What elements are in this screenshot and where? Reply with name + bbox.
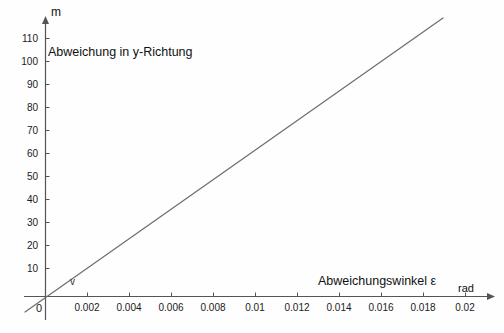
y-axis-title: Abweichung in y-Richtung [48, 46, 193, 59]
chart-figure: m Abweichung in y-Richtung Abweichungswi… [0, 0, 504, 333]
y-tick-label: 80 [12, 103, 38, 113]
y-tick-label: 70 [12, 126, 38, 136]
x-tick-label: 0.002 [64, 303, 110, 313]
y-tick-label: 10 [12, 264, 38, 274]
x-tick-label: 0.018 [400, 303, 446, 313]
x-axis [24, 293, 495, 300]
y-axis-unit-label: m [51, 6, 61, 18]
y-tick-label: 90 [12, 80, 38, 90]
x-tick-label: 0.016 [358, 303, 404, 313]
x-tick-label: 0.006 [148, 303, 194, 313]
x-tick-label: 0.012 [274, 303, 320, 313]
y-tick-label: 100 [12, 57, 38, 67]
x-axis-unit-label: rad [458, 283, 474, 294]
x-tick-label: 0.008 [190, 303, 236, 313]
x-tick-label: 0.004 [106, 303, 152, 313]
x-tick-label: 0.01 [232, 303, 278, 313]
y-tick-label: 20 [12, 241, 38, 251]
origin-tick-label: 0 [36, 303, 42, 314]
y-tick-label: 40 [12, 195, 38, 205]
x-tick-label: 0.014 [316, 303, 362, 313]
x-tick-label: 0.02 [442, 303, 488, 313]
y-tick-label: 50 [12, 172, 38, 182]
y-tick-label: 110 [12, 34, 38, 44]
y-tick-label: 60 [12, 149, 38, 159]
curve-marker-label: v [70, 277, 75, 287]
x-axis-title: Abweichungswinkel ε [318, 275, 436, 288]
y-tick-label: 30 [12, 218, 38, 228]
data-series-line [25, 18, 443, 312]
